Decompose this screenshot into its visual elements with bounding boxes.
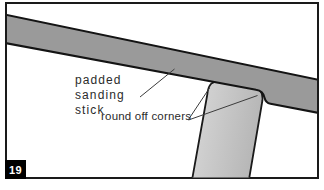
sanding-stick [6, 15, 318, 113]
label-line: padded [75, 73, 125, 88]
illustration-canvas [0, 0, 324, 190]
figure-number-badge: 19 [5, 160, 26, 179]
label-round-off-corners: round off corners [101, 110, 191, 123]
leader-line-sanding-stick [140, 69, 175, 97]
workpiece-post [192, 81, 263, 183]
label-line: sanding [75, 88, 125, 103]
figure-19-illustration: padded sanding stick round off corners 1… [0, 0, 324, 190]
